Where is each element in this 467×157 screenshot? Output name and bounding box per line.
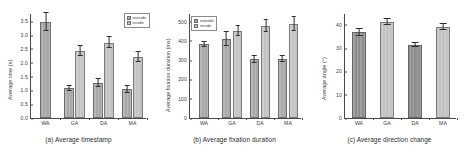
y-tick-label: 0 bbox=[184, 116, 190, 121]
error-bar-cap-top bbox=[412, 42, 419, 43]
bar-with-error bbox=[289, 14, 299, 118]
error-bar-cap-bottom bbox=[263, 31, 268, 32]
error-bar-cap-bottom bbox=[384, 24, 391, 25]
x-tick-mark bbox=[218, 118, 219, 120]
bar-with-error bbox=[233, 14, 243, 118]
legend-entry-inside: inside bbox=[127, 21, 147, 25]
bar bbox=[408, 45, 422, 118]
y-tick-label: 0.5 bbox=[21, 102, 31, 107]
bar bbox=[250, 59, 260, 118]
error-bar-cap-top bbox=[224, 31, 229, 32]
bar-category-group bbox=[246, 14, 274, 118]
bar bbox=[278, 59, 288, 118]
legend-label-inside: inside bbox=[133, 21, 144, 25]
error-bar-cap-bottom bbox=[224, 45, 229, 46]
bar-group-a bbox=[31, 14, 146, 118]
bar-with-error bbox=[133, 14, 143, 118]
bar-with-error bbox=[408, 14, 422, 118]
y-tick-label: 40 bbox=[336, 22, 345, 27]
x-tick-label: MA bbox=[129, 121, 137, 126]
bar-with-error bbox=[352, 14, 366, 118]
error-bar-cap-top bbox=[78, 45, 83, 46]
x-tick-mark bbox=[60, 118, 61, 120]
x-tick-label: DA bbox=[100, 121, 107, 126]
y-tick-label: 500 bbox=[178, 19, 190, 24]
error-bar-line bbox=[45, 13, 46, 31]
error-bar-cap-bottom bbox=[66, 90, 71, 91]
x-tick-mark bbox=[457, 118, 458, 120]
legend-label-inside: inside bbox=[200, 24, 211, 28]
error-bar-cap-top bbox=[280, 55, 285, 56]
bar-category-group bbox=[345, 14, 373, 118]
y-tick-label: 1.5 bbox=[21, 74, 31, 79]
error-bar-line bbox=[226, 32, 227, 45]
error-bar-cap-bottom bbox=[107, 47, 112, 48]
y-axis-label-b: Average fixation duration (ms) bbox=[166, 38, 171, 112]
error-bar-cap-bottom bbox=[78, 55, 83, 56]
panel-b-average-fixation-duration: Average fixation duration (ms) 010020030… bbox=[157, 0, 312, 157]
error-bar-cap-bottom bbox=[202, 46, 207, 47]
panel-a-average-timestamp: Average time (s) 0.00.51.01.52.02.53.03.… bbox=[0, 0, 157, 157]
y-tick-label: 10 bbox=[336, 92, 345, 97]
error-bar-cap-top bbox=[95, 78, 100, 79]
y-tick-label: 3.0 bbox=[21, 33, 31, 38]
bar bbox=[222, 39, 232, 118]
error-bar-cap-bottom bbox=[280, 61, 285, 62]
y-tick-label: 1.0 bbox=[21, 88, 31, 93]
caption-b: (b) Average fixation duration bbox=[157, 137, 312, 143]
bar-with-error bbox=[278, 14, 288, 118]
error-bar-cap-bottom bbox=[235, 35, 240, 36]
plot-area-a: 0.00.51.01.52.02.53.03.5 WAGADAMA bbox=[30, 14, 146, 119]
bar-with-error bbox=[222, 14, 232, 118]
x-tick-label: WA bbox=[41, 121, 49, 126]
bar-with-error bbox=[93, 14, 103, 118]
y-tick-label: 100 bbox=[178, 96, 190, 101]
bar-with-error bbox=[64, 14, 74, 118]
bar bbox=[380, 22, 394, 118]
bar-with-error bbox=[436, 14, 450, 118]
bar bbox=[199, 44, 209, 118]
bar bbox=[104, 43, 114, 118]
x-tick-label: MA bbox=[439, 121, 447, 126]
bar-with-error bbox=[104, 14, 114, 118]
bar bbox=[289, 24, 299, 118]
figure-container: Average time (s) 0.00.51.01.52.02.53.03.… bbox=[0, 0, 467, 157]
error-bar-cap-bottom bbox=[43, 30, 48, 31]
x-tick-mark bbox=[147, 118, 148, 120]
error-bar-cap-top bbox=[263, 19, 268, 20]
y-tick-label: 2.5 bbox=[21, 46, 31, 51]
x-tick-mark bbox=[429, 118, 430, 120]
error-bar-cap-bottom bbox=[124, 92, 129, 93]
legend-swatch-outside-icon bbox=[194, 19, 198, 23]
y-axis-label-c: Average angle (°) bbox=[322, 57, 327, 100]
x-tick-mark bbox=[302, 118, 303, 120]
bar-category-group bbox=[31, 14, 60, 118]
x-tick-mark bbox=[401, 118, 402, 120]
error-bar-cap-top bbox=[202, 41, 207, 42]
panel-c-average-direction-change: Average angle (°) 010203040 WAGADAMA (c)… bbox=[312, 0, 467, 157]
y-tick-label: 20 bbox=[336, 69, 345, 74]
bar-category-group bbox=[401, 14, 429, 118]
y-tick-label: 400 bbox=[178, 38, 190, 43]
bar bbox=[352, 32, 366, 118]
error-bar-cap-bottom bbox=[95, 86, 100, 87]
bar-category-group bbox=[274, 14, 302, 118]
y-tick-label: 3.5 bbox=[21, 19, 31, 24]
y-tick-label: 0 bbox=[339, 116, 345, 121]
x-tick-label: GA bbox=[228, 121, 236, 126]
bar-category-group bbox=[89, 14, 118, 118]
error-bar-cap-top bbox=[124, 85, 129, 86]
bar bbox=[64, 88, 74, 118]
error-bar-cap-bottom bbox=[412, 46, 419, 47]
x-tick-label: DA bbox=[411, 121, 418, 126]
bar-category-group bbox=[60, 14, 89, 118]
bar bbox=[133, 57, 143, 118]
error-bar-cap-top bbox=[136, 51, 141, 52]
x-tick-label: WA bbox=[200, 121, 208, 126]
plot-area-c: 010203040 WAGADAMA bbox=[344, 14, 456, 119]
error-bar-cap-bottom bbox=[356, 35, 363, 36]
bar bbox=[40, 22, 50, 118]
error-bar-cap-top bbox=[440, 23, 447, 24]
x-tick-mark bbox=[118, 118, 119, 120]
x-tick-label: MA bbox=[284, 121, 292, 126]
